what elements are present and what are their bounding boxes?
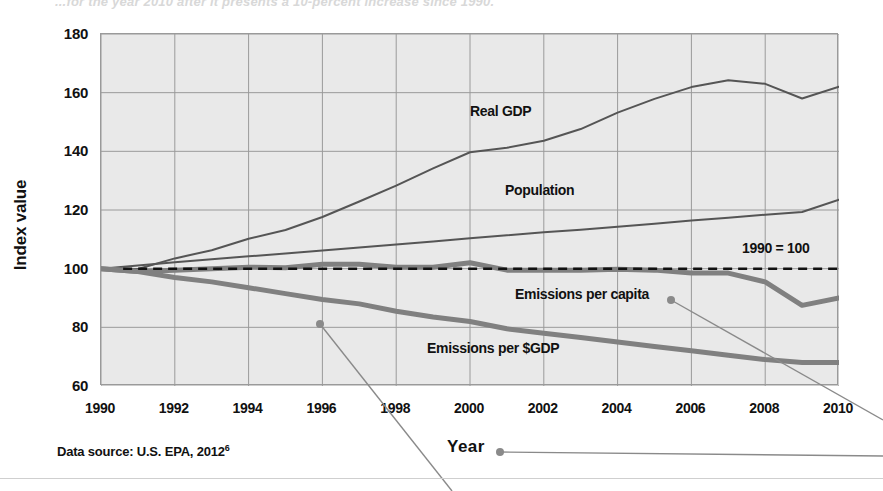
page-bottom-rule <box>0 478 883 479</box>
x-tick-2008: 2008 <box>729 400 799 416</box>
baseline-label: 1990 = 100 <box>742 240 809 256</box>
year-callout-leader-line <box>500 452 883 456</box>
series-label-population: Population <box>505 182 574 198</box>
x-axis-tick-labels: 1990199219941996199820002002200420062008… <box>0 400 883 422</box>
x-tick-1992: 1992 <box>139 400 209 416</box>
y-tick-60: 60 <box>42 377 88 394</box>
y-axis-title: Index value <box>11 160 31 290</box>
emissions-index-line-chart: Index value 6080100120140160180 19901992… <box>0 0 883 491</box>
year-callout-dot <box>496 448 504 456</box>
y-tick-160: 160 <box>42 83 88 100</box>
data-source-caption: Data source: U.S. EPA, 20126 <box>57 443 230 459</box>
series-label-emissions-per-gdp: Emissions per $GDP <box>427 340 559 356</box>
series-label-real-gdp: Real GDP <box>470 103 531 119</box>
plot-area <box>100 33 838 385</box>
x-tick-2000: 2000 <box>434 400 504 416</box>
y-tick-100: 100 <box>42 259 88 276</box>
x-tick-1998: 1998 <box>360 400 430 416</box>
x-tick-2002: 2002 <box>508 400 578 416</box>
data-source-footnote-marker: 6 <box>225 443 230 453</box>
series-label-emissions-per-capita: Emissions per capita <box>515 286 649 302</box>
x-axis-title: Year <box>447 437 485 457</box>
x-tick-2004: 2004 <box>582 400 652 416</box>
y-tick-120: 120 <box>42 201 88 218</box>
x-tick-1994: 1994 <box>213 400 283 416</box>
y-tick-180: 180 <box>42 25 88 42</box>
x-tick-2006: 2006 <box>655 400 725 416</box>
y-tick-140: 140 <box>42 142 88 159</box>
x-tick-1996: 1996 <box>286 400 356 416</box>
x-tick-2010: 2010 <box>803 400 873 416</box>
data-source-text: Data source: U.S. EPA, 2012 <box>57 444 225 459</box>
plot-svg <box>101 34 839 386</box>
x-tick-1990: 1990 <box>65 400 135 416</box>
y-tick-80: 80 <box>42 318 88 335</box>
